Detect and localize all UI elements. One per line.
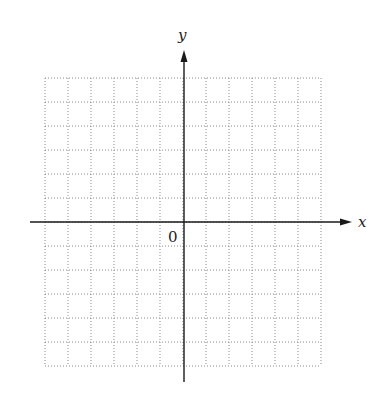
origin-label: 0 [168,228,178,246]
x-axis-arrow-icon [340,219,352,226]
axes [30,50,352,382]
y-axis-arrow-icon [181,50,188,62]
x-axis-label: x [358,213,367,231]
y-axis-label: y [177,26,187,44]
coordinate-plane: x y 0 [0,0,384,400]
